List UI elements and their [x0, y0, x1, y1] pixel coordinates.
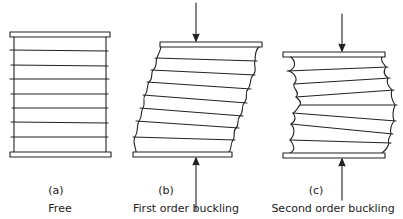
panel-a-letter: (a) — [48, 184, 63, 197]
arrowhead-top — [339, 44, 345, 51]
panel-c-second-order-bellows — [283, 14, 397, 200]
panel-a-free-bellows — [10, 32, 111, 157]
bottom-plate — [133, 152, 232, 157]
right-wall — [229, 47, 259, 152]
top-plate — [10, 32, 110, 37]
panel-c-letter: (c) — [309, 184, 324, 197]
bottom-plate — [10, 152, 111, 157]
bellows-buckling-diagram: (a) Free (b) First order buckling (c) Se… — [0, 0, 403, 219]
top-plate — [283, 52, 385, 57]
arrowhead-top — [193, 34, 199, 41]
top-plate — [160, 42, 262, 47]
left-wall — [134, 47, 161, 152]
panel-c-caption: Second order buckling — [271, 202, 394, 215]
bottom-plate — [283, 153, 385, 158]
panel-b-caption: First order buckling — [133, 202, 239, 215]
panel-b-first-order-bellows — [133, 3, 262, 210]
panel-b-letter: (b) — [158, 184, 174, 197]
arrowhead-bottom — [193, 158, 199, 165]
panel-a-caption: Free — [48, 202, 72, 215]
arrowhead-bottom — [339, 159, 345, 166]
